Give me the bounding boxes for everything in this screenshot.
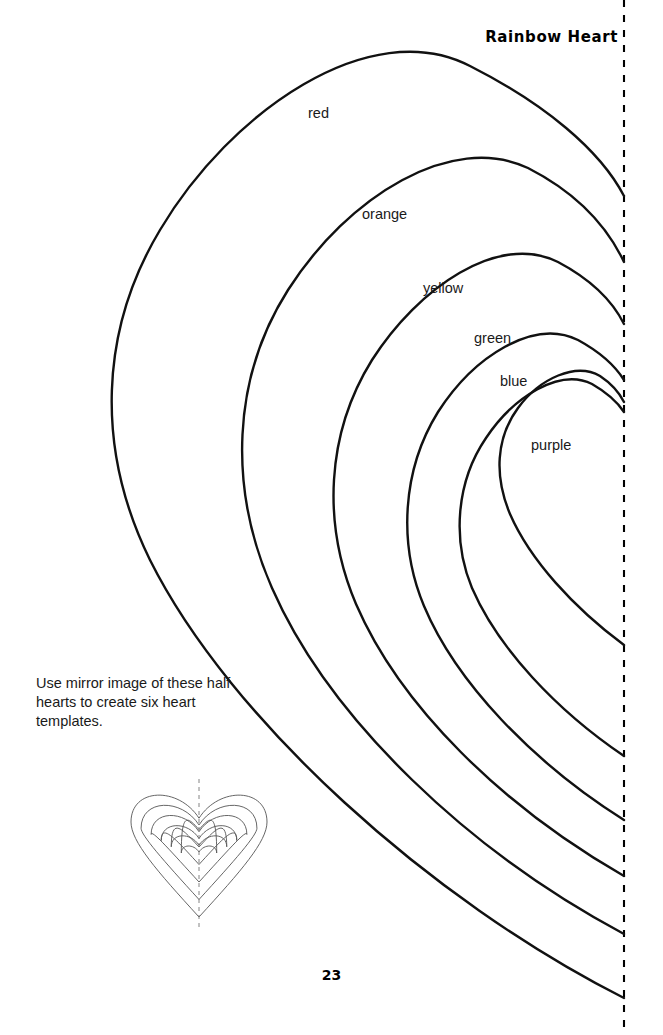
band-label-red: red [308, 105, 329, 121]
band-label-purple: purple [531, 437, 571, 453]
page-number: 23 [0, 967, 663, 983]
band-label-green: green [474, 330, 511, 346]
half-heart-curve-orange [242, 158, 624, 934]
band-label-blue: blue [500, 373, 527, 389]
six-nested-hearts-preview [124, 775, 274, 935]
half-heart-curve-yellow [334, 254, 624, 876]
worksheet-page: Rainbow Heart red orange yellow green bl… [0, 0, 663, 1035]
band-label-orange: orange [362, 206, 407, 222]
half-heart-curve-green [407, 334, 624, 820]
page-title: Rainbow Heart [485, 28, 618, 46]
band-label-yellow: yellow [423, 280, 463, 296]
instruction-note: Use mirror image of these half hearts to… [36, 674, 246, 731]
rainbow-heart-template-artwork [0, 0, 663, 1035]
half-heart-curve-purple [500, 371, 624, 645]
